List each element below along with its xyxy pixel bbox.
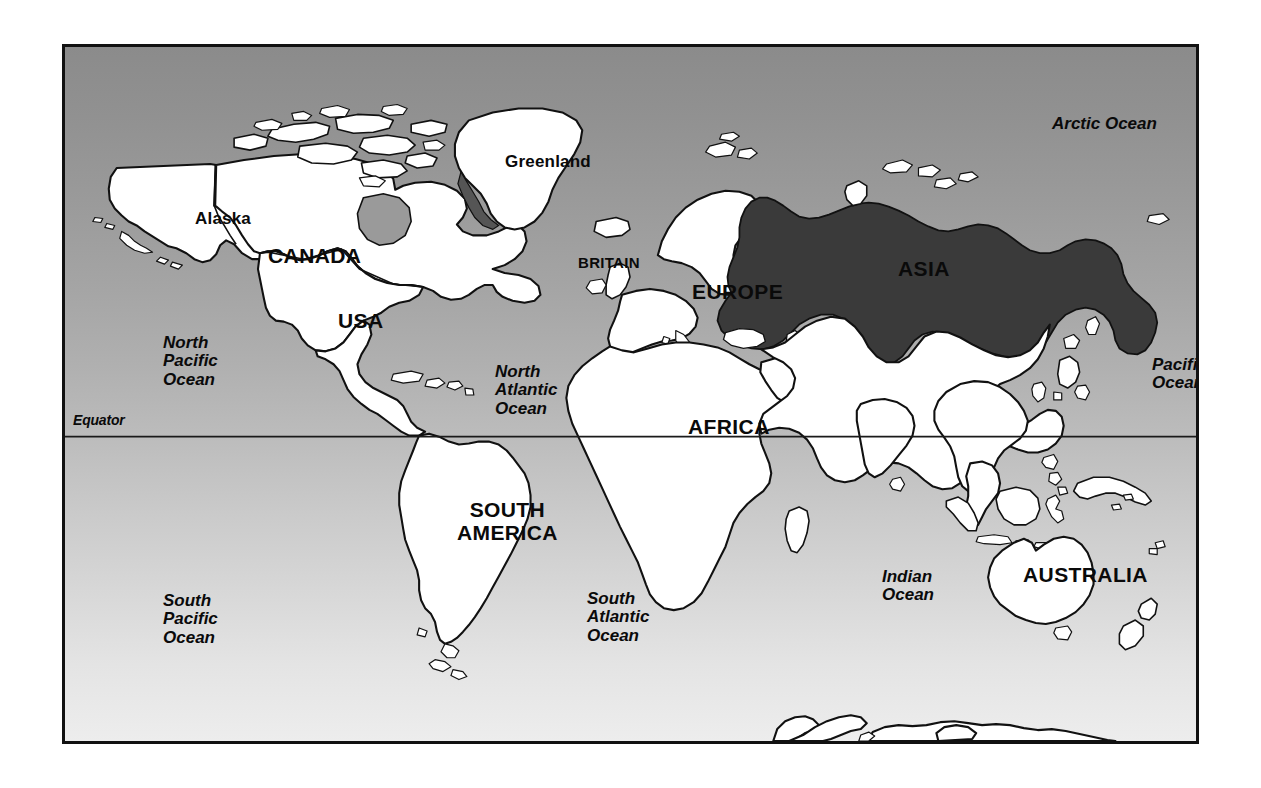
landmass-japan	[1054, 335, 1090, 400]
label-arctic-ocean: Arctic Ocean	[1052, 115, 1157, 133]
label-canada: CANADA	[268, 245, 361, 268]
label-south-pacific-ocean: South Pacific Ocean	[163, 592, 218, 647]
landmass-new-zealand	[1138, 598, 1157, 620]
label-alaska: Alaska	[195, 210, 251, 228]
label-australia: AUSTRALIA	[1023, 564, 1148, 587]
landmass-south-america	[399, 434, 530, 680]
label-north-pacific-ocean: North Pacific Ocean	[163, 334, 218, 389]
landmass-svalbard	[706, 132, 758, 159]
label-greenland: Greenland	[505, 153, 591, 171]
landmass-aleutian-islands	[93, 218, 115, 230]
landmass-sri-lanka	[890, 477, 905, 491]
world-map-figure: .land { fill:#ffffff; stroke:#111111; st…	[0, 0, 1261, 788]
label-asia: ASIA	[898, 258, 950, 281]
landmass-ireland	[586, 279, 606, 294]
label-north-atlantic-ocean: North Atlantic Ocean	[495, 363, 557, 418]
landmass-new-guinea	[1074, 477, 1152, 505]
landmass-aleutians	[120, 231, 153, 253]
hudson-bay	[357, 194, 411, 246]
landmass-caribbean	[391, 371, 474, 395]
label-indian-ocean: Indian Ocean	[882, 568, 934, 605]
landmass-antarctica	[773, 715, 1115, 741]
label-equator: Equator	[73, 413, 125, 428]
label-britain: BRITAIN	[578, 255, 640, 271]
map-frame: .land { fill:#ffffff; stroke:#111111; st…	[62, 44, 1199, 744]
landmass-alaska-peninsula-islands	[157, 257, 183, 269]
landmass-iceland	[594, 218, 630, 238]
label-pacific-ocean: Pacific Ocean	[1152, 356, 1199, 393]
label-south-america: SOUTH AMERICA	[457, 499, 558, 544]
label-africa: AFRICA	[688, 416, 770, 439]
landmass-madagascar	[785, 507, 809, 553]
landmass-asia	[759, 160, 1169, 529]
label-europe: EUROPE	[692, 281, 783, 304]
label-usa: USA	[338, 310, 384, 333]
landmass-africa	[566, 342, 819, 610]
label-south-atlantic-ocean: South Atlantic Ocean	[587, 590, 649, 645]
